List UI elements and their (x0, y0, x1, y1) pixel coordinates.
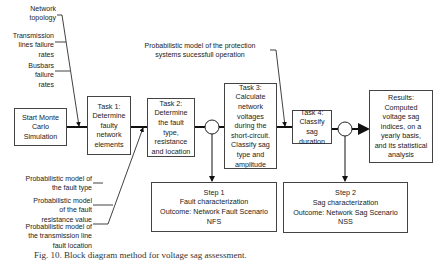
task1-box: Task 1: Determine faulty network element… (87, 96, 131, 155)
input-fault-location-model: Probabilistic model of the transmission … (10, 222, 92, 250)
input-busbars-failure-rates: Busbars failure rates (14, 61, 54, 89)
step1-box: Step 1 Fault characterization Outcome: N… (151, 182, 277, 232)
figure-caption: Fig. 10. Block diagram method for voltag… (34, 250, 247, 260)
task2-box: Task 2: Determine the fault type, resist… (147, 98, 195, 157)
input-protection-model: Probabilistic model of the protection sy… (130, 41, 270, 60)
input-transmission-failure-rates: Transmission lines failure rates (0, 31, 54, 59)
input-fault-resistance-model: Probabilistic model of the fault resista… (10, 196, 92, 224)
junction-circle-1 (205, 120, 219, 134)
input-fault-type-model: Probabilistic model of the fault type (10, 174, 92, 193)
junction-circle-2 (338, 122, 352, 136)
input-network-topology: Network topology (14, 4, 56, 23)
start-monte-carlo-box: Start Monte Carlo Simulation (14, 108, 67, 146)
task3-box: Task 3: Calculate network voltages durin… (224, 83, 277, 169)
task4-box: Task 4: Classify sag duration (292, 110, 332, 144)
results-box: Results: Computed voltage sag indices, o… (369, 90, 433, 163)
step2-box: Step 2 Sag characterization Outcome: Net… (283, 182, 408, 233)
